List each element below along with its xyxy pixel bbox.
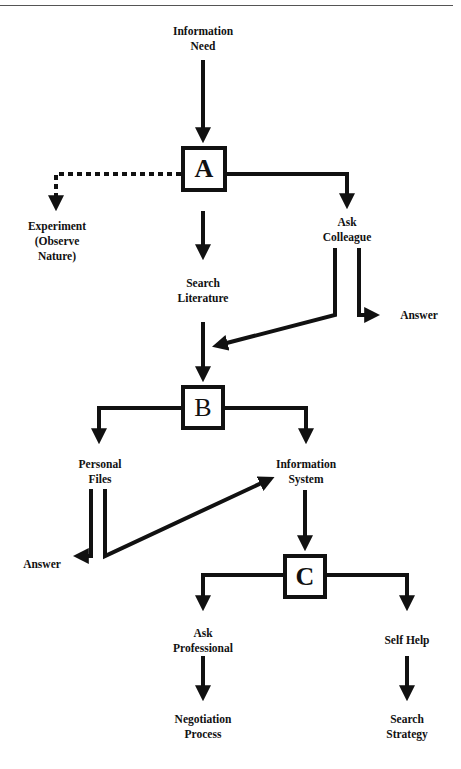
node-line: Experiment — [28, 219, 86, 234]
decision-box-b: B — [181, 385, 225, 430]
decision-label-b: B — [194, 395, 211, 421]
node-line: Search — [178, 276, 229, 291]
node-line: Personal — [79, 457, 122, 472]
node-line: Process — [175, 727, 232, 742]
node-line: Search — [386, 712, 428, 727]
arrow-c-to-ask-professional — [203, 575, 283, 604]
decision-box-c: C — [283, 554, 327, 599]
node-line: Negotiation — [175, 712, 232, 727]
arrow-b-to-personal-files — [99, 408, 181, 437]
node-line: Answer — [400, 308, 438, 323]
node-line: Literature — [178, 291, 229, 306]
arrow-b-to-information-system — [224, 408, 306, 437]
arrow-files-to-answer — [80, 489, 91, 556]
node-line: Ask — [173, 626, 233, 641]
arrow-colleague-to-b — [219, 248, 335, 345]
node-line: Files — [79, 472, 122, 487]
node-line: Need — [173, 39, 233, 54]
node-line: Colleague — [323, 230, 372, 245]
node-ask-colleague: Ask Colleague — [323, 215, 372, 245]
node-line: Information — [173, 24, 233, 39]
node-self-help: Self Help — [384, 633, 429, 648]
arrow-colleague-to-answer — [359, 248, 373, 315]
node-negotiation-process: Negotiation Process — [175, 712, 232, 742]
node-line: Information — [276, 457, 336, 472]
arrow-files-to-information-system — [105, 480, 268, 556]
node-line: Self Help — [384, 633, 429, 648]
node-line: Answer — [23, 557, 61, 572]
node-line: System — [276, 472, 336, 487]
arrow-a-to-experiment — [56, 174, 181, 204]
node-answer-files: Answer — [23, 557, 61, 572]
decision-label-a: A — [195, 156, 214, 182]
node-experiment: Experiment (Observe Nature) — [28, 219, 86, 264]
node-personal-files: Personal Files — [79, 457, 122, 487]
node-answer-colleague: Answer — [400, 308, 438, 323]
decision-label-c: C — [296, 564, 315, 590]
node-line: (Observe — [28, 234, 86, 249]
node-line: Strategy — [386, 727, 428, 742]
node-search-literature: Search Literature — [178, 276, 229, 306]
arrow-a-to-ask-colleague — [226, 174, 347, 202]
node-information-system: Information System — [276, 457, 336, 487]
node-search-strategy: Search Strategy — [386, 712, 428, 742]
node-ask-professional: Ask Professional — [173, 626, 233, 656]
node-line: Nature) — [28, 249, 86, 264]
arrow-c-to-self-help — [326, 575, 407, 604]
node-line: Ask — [323, 215, 372, 230]
node-information-need: Information Need — [173, 24, 233, 54]
decision-box-a: A — [181, 146, 227, 192]
node-line: Professional — [173, 641, 233, 656]
